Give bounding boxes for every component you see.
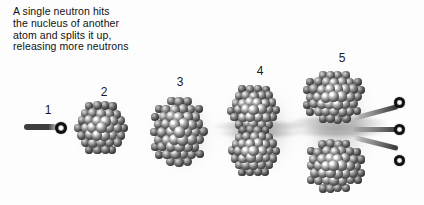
- released-neutron-3: [394, 155, 405, 166]
- fission-diagram: A single neutron hits the nucleus of ano…: [0, 0, 424, 205]
- step-label-4: 4: [252, 65, 268, 77]
- nucleon: [174, 158, 183, 167]
- nucleon: [174, 126, 185, 137]
- nucleon: [248, 146, 259, 157]
- target-nucleus: [74, 100, 128, 156]
- nucleon: [261, 168, 269, 176]
- nucleon: [248, 105, 259, 116]
- nucleon: [238, 169, 246, 177]
- step-label-3: 3: [172, 76, 188, 88]
- step-label-2: 2: [96, 86, 112, 98]
- splitting-nucleus-bottom: [227, 124, 281, 178]
- neutron-trail-released-2: [352, 127, 400, 132]
- diagram-caption: A single neutron hits the nucleus of ano…: [13, 6, 193, 53]
- neutron-motion-trail-incoming: [24, 124, 58, 130]
- step-label-1: 1: [40, 104, 56, 116]
- step-label-5: 5: [334, 52, 350, 64]
- nucleon: [306, 108, 314, 116]
- released-neutron-2: [394, 124, 405, 135]
- incoming-neutron: [55, 122, 67, 134]
- fission-fragment-bottom: [303, 136, 365, 196]
- excited-nucleus: [150, 93, 208, 171]
- released-neutron-1: [394, 97, 405, 108]
